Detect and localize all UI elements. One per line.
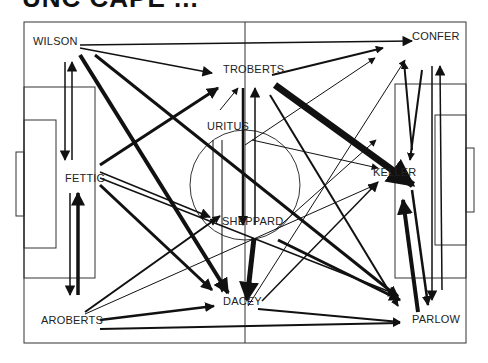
left-goal-area	[24, 120, 56, 248]
pass-arrow	[272, 48, 383, 75]
pass-arrow	[80, 41, 412, 45]
left-goal	[16, 152, 24, 216]
player-label-confer: CONFER	[412, 30, 460, 42]
pass-arrow	[220, 88, 238, 110]
pass-arrow	[100, 306, 214, 320]
player-label-wilson: WILSON	[33, 35, 78, 47]
right-goal-area	[435, 115, 466, 245]
player-label-uritus: URITUS	[207, 120, 249, 132]
player-label-keller: KELLER	[373, 166, 416, 178]
player-label-fettig: FETTIG	[65, 172, 105, 184]
pass-arrow	[95, 55, 398, 297]
player-label-parlow: PARLOW	[412, 313, 460, 325]
player-label-dacey: DACEY	[223, 295, 262, 307]
player-label-troberts: TROBERTS	[223, 63, 284, 75]
pass-arrow	[100, 323, 400, 329]
player-label-aroberts: AROBERTS	[41, 314, 103, 326]
player-label-sheppard: SHEPPARD	[222, 215, 283, 227]
pass-arrow	[247, 238, 254, 300]
pass-arrows	[65, 41, 442, 329]
right-goal	[466, 148, 474, 212]
pass-arrow	[85, 216, 220, 312]
pass-arrow	[258, 309, 400, 322]
pass-arrow	[440, 66, 442, 290]
pass-arrow	[404, 62, 412, 150]
